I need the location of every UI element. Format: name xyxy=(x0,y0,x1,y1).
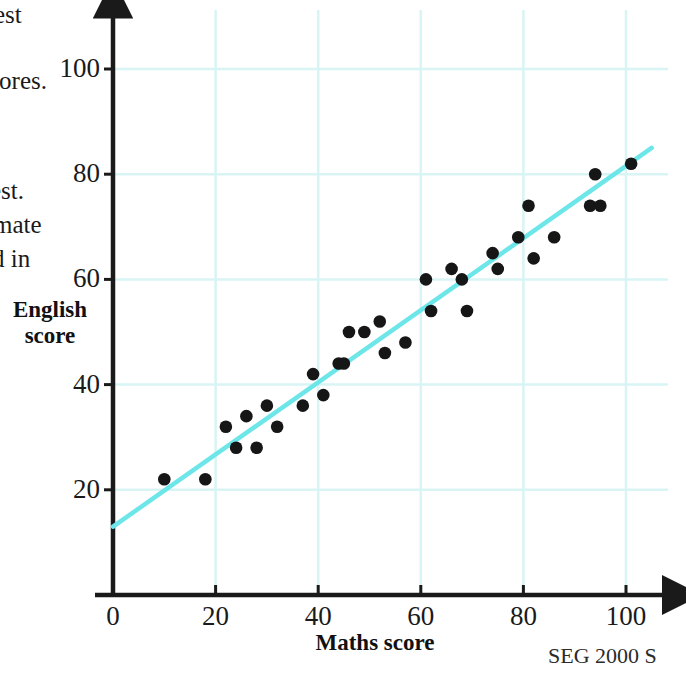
y-axis-tick-label: 40 xyxy=(38,371,100,398)
x-axis-tick-label: 100 xyxy=(596,603,656,630)
y-axis-title-line: English xyxy=(0,297,100,323)
data-point xyxy=(307,368,320,381)
data-point xyxy=(486,247,499,260)
data-point xyxy=(420,273,433,286)
data-point xyxy=(343,326,356,339)
axes xyxy=(95,14,666,595)
data-point xyxy=(240,410,253,423)
x-axis-tick-label: 80 xyxy=(493,603,553,630)
data-point xyxy=(399,336,412,349)
data-point xyxy=(379,347,392,360)
data-point xyxy=(158,473,171,486)
x-axis-title: Maths score xyxy=(275,630,475,656)
data-point xyxy=(594,199,607,212)
y-axis-title-line: score xyxy=(0,323,100,349)
y-axis-tick-label: 100 xyxy=(38,55,100,82)
data-point xyxy=(548,231,561,244)
data-point xyxy=(230,441,243,454)
x-axis-tick-label: 40 xyxy=(288,603,348,630)
gridlines xyxy=(113,10,668,595)
data-point xyxy=(456,273,469,286)
data-point xyxy=(461,305,474,318)
y-axis-tick-label: 80 xyxy=(38,160,100,187)
data-point xyxy=(199,473,212,486)
data-point xyxy=(317,389,330,402)
worksheet-page: est cores. est. imate d in 20406080100 0… xyxy=(0,0,686,676)
data-point xyxy=(261,399,274,412)
x-axis-tick-label: 20 xyxy=(186,603,246,630)
data-point xyxy=(338,357,351,370)
data-point xyxy=(522,199,535,212)
data-point xyxy=(220,420,233,433)
data-point xyxy=(250,441,263,454)
scatter-plot xyxy=(0,0,686,676)
data-point xyxy=(527,252,540,265)
data-point xyxy=(373,315,386,328)
x-axis-tick-label: 0 xyxy=(83,603,143,630)
line-of-best-fit xyxy=(113,148,652,527)
data-point xyxy=(358,326,371,339)
source-credit: SEG 2000 S xyxy=(548,645,657,667)
data-point xyxy=(425,305,438,318)
data-point xyxy=(512,231,525,244)
data-point xyxy=(271,420,284,433)
x-axis-tick-label: 60 xyxy=(391,603,451,630)
y-axis-tick-label: 60 xyxy=(38,265,100,292)
data-point xyxy=(625,157,638,170)
y-axis-title: Englishscore xyxy=(0,297,100,350)
y-axis-tick-label: 20 xyxy=(38,476,100,503)
data-point xyxy=(491,263,504,276)
data-point xyxy=(589,168,602,181)
data-point xyxy=(445,263,458,276)
trend-line xyxy=(113,148,652,527)
data-point xyxy=(297,399,310,412)
